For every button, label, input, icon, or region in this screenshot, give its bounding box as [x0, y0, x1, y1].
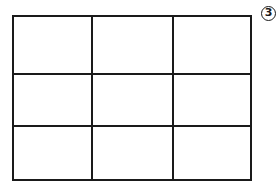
three-by-three-grid	[12, 15, 252, 181]
grid-vertical-line-2	[172, 17, 174, 179]
grid-horizontal-line-2	[14, 125, 250, 127]
circled-number-label: 3	[261, 6, 276, 21]
grid-vertical-line-1	[91, 17, 93, 179]
grid-horizontal-line-1	[14, 73, 250, 75]
